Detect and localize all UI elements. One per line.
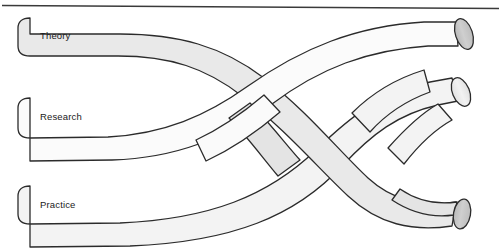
top-horizontal-rule (2, 6, 499, 9)
braid-diagram-svg: Theory Research Practice (0, 0, 501, 249)
strand-label-theory: Theory (40, 30, 71, 41)
strand-label-research: Research (40, 111, 82, 122)
braid-diagram-container: Theory Research Practice (0, 0, 501, 249)
strand-label-practice: Practice (40, 199, 76, 210)
